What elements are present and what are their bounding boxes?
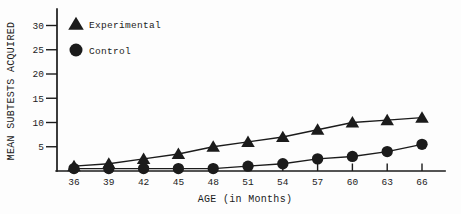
series-control-point-51-circle-icon [242, 160, 253, 171]
series-control-point-45-circle-icon [173, 163, 184, 174]
series-control-point-60-circle-icon [347, 151, 358, 162]
data-series [67, 111, 429, 174]
legend-label-experimental: Experimental [89, 20, 161, 31]
legend-control-circle-icon [69, 43, 82, 56]
x-tick-label-45: 45 [173, 177, 185, 188]
x-tick-label-36: 36 [68, 177, 80, 188]
series-control-point-48-circle-icon [208, 163, 219, 174]
series-control-point-36-circle-icon [68, 163, 79, 174]
series-control-point-66-circle-icon [416, 139, 427, 150]
y-tick-label-5: 5 [38, 142, 44, 153]
chart-canvas: MEAN SUBTESTS ACQUIRED AGE (in Months) 5… [0, 0, 461, 214]
x-tick-label-48: 48 [207, 177, 219, 188]
chart: MEAN SUBTESTS ACQUIRED AGE (in Months) 5… [0, 0, 461, 214]
y-tick-label-15: 15 [33, 94, 45, 105]
series-control-point-42-circle-icon [138, 163, 149, 174]
x-axis-title: AGE (in Months) [198, 194, 293, 205]
series-control-point-57-circle-icon [312, 153, 323, 164]
series-control-point-63-circle-icon [382, 146, 393, 157]
x-tick-label-60: 60 [347, 177, 359, 188]
x-tick-label-39: 39 [103, 177, 115, 188]
y-tick-label-10: 10 [33, 118, 45, 129]
legend: ExperimentalControl [68, 17, 161, 57]
series-experimental-point-66-triangle-icon [415, 111, 429, 122]
y-tick-label-25: 25 [33, 45, 45, 56]
y-axis-title: MEAN SUBTESTS ACQUIRED [6, 22, 17, 161]
series-control-point-39-circle-icon [103, 163, 114, 174]
x-tick-label-51: 51 [242, 177, 254, 188]
y-tick-label-30: 30 [33, 21, 45, 32]
x-tick-label-42: 42 [138, 177, 150, 188]
x-tick-label-63: 63 [381, 177, 393, 188]
legend-label-control: Control [89, 46, 131, 57]
x-tick-label-57: 57 [312, 177, 323, 188]
legend-experimental-triangle-icon [68, 17, 84, 30]
x-tick-label-66: 66 [416, 177, 428, 188]
x-tick-label-54: 54 [277, 177, 289, 188]
series-control-point-54-circle-icon [277, 158, 288, 169]
y-tick-label-20: 20 [33, 69, 45, 80]
